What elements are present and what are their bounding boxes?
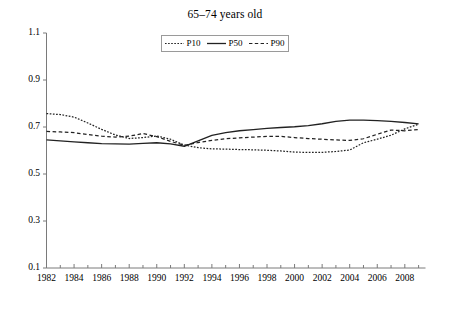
series-line-p50 [47, 120, 419, 146]
y-tick-label: 0.1 [13, 262, 40, 272]
x-tick-label: 2008 [389, 273, 421, 283]
plot-area [0, 0, 450, 309]
y-tick-label: 0.5 [13, 168, 40, 178]
y-tick-label: 1.1 [13, 27, 40, 37]
y-tick-label: 0.9 [13, 74, 40, 84]
y-tick-label: 0.3 [13, 215, 40, 225]
chart-figure: 65–74 years old P10 P50 P90 1.10.90.70.5… [0, 0, 450, 309]
data-series [47, 114, 419, 153]
axes [43, 33, 426, 268]
series-line-p10 [47, 114, 419, 153]
y-tick-label: 0.7 [13, 121, 40, 131]
